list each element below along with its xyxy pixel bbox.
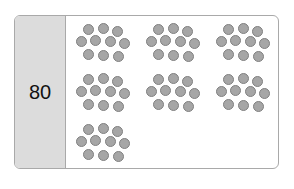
dot-icon: [259, 38, 270, 49]
dot-group: [75, 24, 131, 68]
dot-icon: [153, 74, 164, 85]
dot-icon: [189, 38, 200, 49]
number-label: 80: [29, 81, 51, 104]
dot-icon: [168, 73, 179, 84]
dot-icon: [76, 136, 87, 147]
dot-icon: [153, 49, 164, 60]
dot-group: [215, 24, 271, 68]
dot-icon: [119, 88, 130, 99]
dot-icon: [238, 100, 249, 111]
dot-icon: [76, 86, 87, 97]
dot-icon: [183, 51, 194, 62]
dot-icon: [253, 101, 264, 112]
dot-icon: [153, 99, 164, 110]
dot-icon: [98, 23, 109, 34]
dot-icon: [113, 51, 124, 62]
dot-icon: [98, 50, 109, 61]
dot-icon: [223, 49, 234, 60]
dot-icon: [259, 88, 270, 99]
dot-group: [75, 74, 131, 118]
dot-icon: [90, 85, 101, 96]
dot-icon: [230, 35, 241, 46]
dot-icon: [168, 100, 179, 111]
dot-icon: [146, 36, 157, 47]
dot-icon: [245, 36, 256, 47]
dot-icon: [112, 76, 123, 87]
dot-icon: [113, 151, 124, 162]
dot-icon: [119, 138, 130, 149]
dot-icon: [175, 36, 186, 47]
dot-icon: [83, 149, 94, 160]
dot-icon: [216, 86, 227, 97]
dot-icon: [112, 26, 123, 37]
dot-icon: [98, 150, 109, 161]
dot-icon: [182, 26, 193, 37]
dot-icon: [119, 38, 130, 49]
base-ten-card: 80: [14, 15, 279, 169]
dot-icon: [223, 74, 234, 85]
dot-icon: [230, 85, 241, 96]
dot-icon: [146, 86, 157, 97]
dot-group: [75, 124, 131, 168]
dot-icon: [168, 23, 179, 34]
dot-icon: [98, 100, 109, 111]
dot-icon: [105, 136, 116, 147]
dot-icon: [216, 36, 227, 47]
dot-icon: [160, 35, 171, 46]
dot-icon: [90, 35, 101, 46]
dot-icon: [105, 86, 116, 97]
dot-icon: [83, 74, 94, 85]
dot-icon: [83, 99, 94, 110]
dot-icon: [105, 36, 116, 47]
dot-group: [215, 74, 271, 118]
dot-icon: [98, 123, 109, 134]
dot-group: [145, 74, 201, 118]
dot-icon: [238, 73, 249, 84]
dot-icon: [189, 88, 200, 99]
dot-icon: [238, 23, 249, 34]
dot-icon: [112, 126, 123, 137]
dot-icon: [168, 50, 179, 61]
dot-icon: [253, 51, 264, 62]
dot-icon: [153, 24, 164, 35]
dot-icon: [90, 135, 101, 146]
dot-group: [145, 24, 201, 68]
dot-icon: [83, 49, 94, 60]
dot-icon: [223, 24, 234, 35]
dot-icon: [252, 76, 263, 87]
dot-icon: [160, 85, 171, 96]
dot-icon: [76, 36, 87, 47]
dot-icon: [175, 86, 186, 97]
dot-icon: [83, 124, 94, 135]
dot-icon: [113, 101, 124, 112]
dot-icon: [223, 99, 234, 110]
dot-icon: [245, 86, 256, 97]
dot-icon: [183, 101, 194, 112]
dot-icon: [182, 76, 193, 87]
number-label-panel: 80: [15, 16, 66, 168]
dot-icon: [98, 73, 109, 84]
dot-icon: [238, 50, 249, 61]
dot-icon: [252, 26, 263, 37]
dot-icon: [83, 24, 94, 35]
